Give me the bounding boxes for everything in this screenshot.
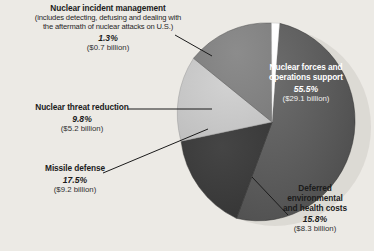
pie-chart-figure: Nuclear incident management (includes de… <box>0 0 374 251</box>
callout-incident-amount: ($0.7 billion) <box>2 43 214 52</box>
callout-threat-label: Nuclear threat reduction <box>8 103 156 113</box>
callout-forces-percent: 55.5% <box>246 84 366 94</box>
callout-threat-amount: ($5.2 billion) <box>8 124 156 133</box>
callout-forces-amount: ($29.1 billion) <box>246 94 366 103</box>
callout-nuclear-forces-operations-support[interactable]: Nuclear forces and operations support 55… <box>246 63 366 103</box>
callout-nuclear-incident-management[interactable]: Nuclear incident management (includes de… <box>2 4 214 52</box>
callout-deferred-amount: ($8.3 billion) <box>258 224 372 233</box>
callout-incident-note-line2: the aftermath of nuclear attacks on U.S.… <box>2 23 214 32</box>
callout-missile-percent: 17.5% <box>10 175 140 185</box>
callout-nuclear-threat-reduction[interactable]: Nuclear threat reduction 9.8% ($5.2 bill… <box>8 103 156 133</box>
callout-forces-label-line2: operations support <box>246 73 366 83</box>
callout-deferred-environmental-health-costs[interactable]: Deferred environmental and health costs … <box>258 184 372 234</box>
callout-deferred-label-line3: and health costs <box>258 204 372 214</box>
callout-missile-defense[interactable]: Missile defense 17.5% ($9.2 billion) <box>10 164 140 194</box>
callout-incident-percent: 1.3% <box>2 33 214 43</box>
callout-missile-label: Missile defense <box>10 164 140 174</box>
callout-deferred-percent: 15.8% <box>258 214 372 224</box>
callout-threat-percent: 9.8% <box>8 114 156 124</box>
callout-missile-amount: ($9.2 billion) <box>10 185 140 194</box>
